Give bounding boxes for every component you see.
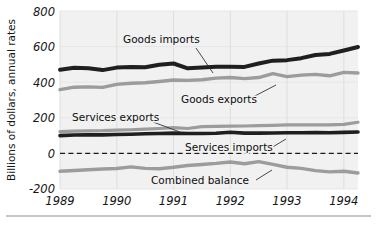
x-tick-1993: 1993 bbox=[272, 194, 301, 208]
y-tick-800: 800 bbox=[33, 5, 55, 19]
label-goods-exports: Goods exports bbox=[181, 93, 257, 105]
chart-figure: 800 600 400 200 0 -200 Billions of dolla… bbox=[0, 0, 377, 225]
x-tick-1989: 1989 bbox=[45, 194, 74, 208]
x-axis-tick-labels: 1989 1990 1991 1992 1993 1994 bbox=[45, 194, 358, 208]
label-services-exports: Services exports bbox=[72, 111, 159, 123]
y-tick-600: 600 bbox=[33, 40, 55, 54]
x-tick-1994: 1994 bbox=[329, 194, 358, 208]
trade-balance-line-chart: 800 600 400 200 0 -200 Billions of dolla… bbox=[0, 0, 377, 225]
y-tick-400: 400 bbox=[33, 76, 55, 90]
label-goods-imports: Goods imports bbox=[123, 33, 200, 45]
y-tick-0: 0 bbox=[48, 147, 55, 161]
label-services-imports: Services imports bbox=[185, 141, 273, 153]
label-combined-balance: Combined balance bbox=[151, 174, 249, 186]
y-tick-200: 200 bbox=[33, 111, 55, 125]
y-axis-title: Billions of dollars, annual rates bbox=[5, 19, 17, 181]
x-tick-1991: 1991 bbox=[159, 194, 188, 208]
y-axis-tick-labels: 800 600 400 200 0 -200 bbox=[29, 5, 55, 197]
x-tick-1992: 1992 bbox=[216, 194, 245, 208]
x-tick-1990: 1990 bbox=[102, 194, 131, 208]
